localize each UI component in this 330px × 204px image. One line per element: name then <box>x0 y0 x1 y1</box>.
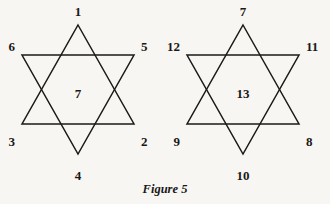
right-vertex-label-lower-right: 8 <box>306 134 313 149</box>
left-vertex-label-upper-right: 5 <box>141 39 148 54</box>
left-hexagram-down-triangle <box>22 55 134 154</box>
left-hexagram-up-triangle <box>22 25 134 124</box>
left-vertex-label-bottom: 4 <box>75 168 82 183</box>
figure-container: 7 1 5 2 4 3 6 13 7 11 8 10 9 12 Figure 5 <box>0 0 330 204</box>
right-hexagram-center-value: 13 <box>237 86 251 101</box>
right-vertex-label-upper-left: 12 <box>167 39 180 54</box>
right-hexagram-down-triangle <box>187 55 299 154</box>
left-vertex-label-top: 1 <box>75 4 82 19</box>
left-vertex-label-upper-left: 6 <box>9 39 16 54</box>
left-hexagram: 7 1 5 2 4 3 6 <box>9 4 149 183</box>
figure-caption: Figure 5 <box>142 182 188 196</box>
left-hexagram-center-value: 7 <box>75 86 82 101</box>
right-vertex-label-upper-right: 11 <box>306 39 318 54</box>
right-vertex-label-lower-left: 9 <box>174 134 181 149</box>
right-vertex-label-bottom: 10 <box>237 168 250 183</box>
figure-5-diagram: 7 1 5 2 4 3 6 13 7 11 8 10 9 12 Figure 5 <box>0 0 330 204</box>
right-hexagram: 13 7 11 8 10 9 12 <box>167 4 318 183</box>
left-vertex-label-lower-left: 3 <box>9 134 16 149</box>
right-vertex-label-top: 7 <box>240 4 247 19</box>
right-hexagram-up-triangle <box>187 25 299 124</box>
left-vertex-label-lower-right: 2 <box>141 134 148 149</box>
